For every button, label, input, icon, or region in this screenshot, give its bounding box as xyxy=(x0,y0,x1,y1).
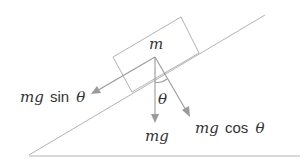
parallel-prefix: mg xyxy=(20,88,44,106)
arrowhead-icon xyxy=(182,106,190,117)
parallel-angle: θ xyxy=(76,88,85,106)
parallel-force-arrow xyxy=(95,57,155,92)
parallel-fn: sin xyxy=(50,88,69,105)
gravity-label: mg xyxy=(145,127,169,145)
mass-label: m xyxy=(149,35,163,53)
perpendicular-angle: θ xyxy=(256,119,265,137)
perpendicular-component-label: mg cos θ xyxy=(195,119,265,137)
parallel-component-label: mg sin θ xyxy=(20,88,85,106)
inclined-plane-diagram: m θ mg mg sin θ mg cos θ xyxy=(0,0,305,162)
block xyxy=(113,17,199,92)
perpendicular-prefix: mg xyxy=(195,119,219,137)
angle-label: θ xyxy=(158,90,167,108)
arrowhead-icon xyxy=(151,114,159,123)
perpendicular-fn: cos xyxy=(225,119,248,136)
